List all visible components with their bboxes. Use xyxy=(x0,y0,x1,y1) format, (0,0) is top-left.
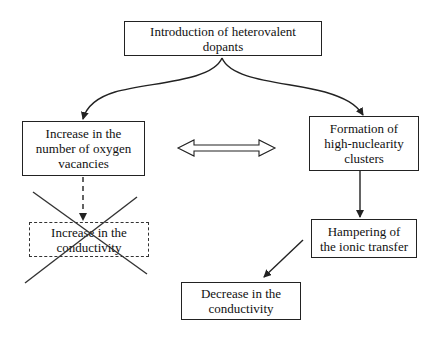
cross-out-layer xyxy=(0,0,438,343)
flowchart-canvas: Introduction of heterovalent dopants Inc… xyxy=(0,0,438,343)
cross-out-line-2 xyxy=(25,197,137,283)
